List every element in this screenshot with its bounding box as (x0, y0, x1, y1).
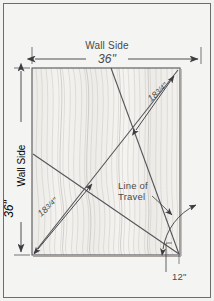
label-dimension-left: 36" (2, 162, 16, 256)
label-line-of-travel-2: Travel (118, 191, 148, 202)
label-dimension-top: 36" (0, 52, 214, 66)
label-wall-side-top: Wall Side (0, 40, 214, 51)
label-dimension-offset: 12" (172, 271, 187, 282)
label-wall-side-left: Wall Side (16, 119, 27, 213)
label-line-of-travel-1: Line of (118, 180, 148, 191)
label-line-of-travel: Line of Travel (118, 180, 148, 202)
diagram-figure: Wall Side 36" Wall Side 36" 183/4" 183/4… (0, 0, 214, 301)
label-left-group: Wall Side 36" (14, 120, 28, 230)
